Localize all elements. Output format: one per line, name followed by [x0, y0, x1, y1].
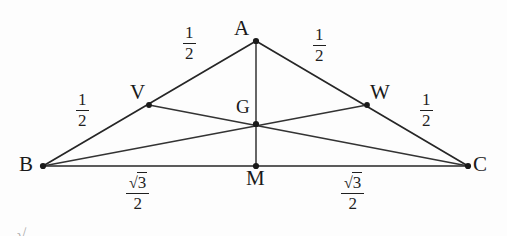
- length-label-AW: 1 2: [313, 26, 326, 66]
- point-dot-G: [253, 121, 259, 127]
- vertex-label-W: W: [370, 82, 390, 103]
- fraction-numerator: 1: [76, 91, 89, 111]
- segment-cevian-BW: [43, 105, 367, 166]
- vertex-label-A: A: [234, 18, 249, 39]
- fraction-AW: 1 2: [313, 26, 326, 66]
- point-dot-B: [40, 163, 46, 169]
- vertex-label-V: V: [130, 82, 145, 103]
- fraction-denominator: 2: [341, 194, 364, 213]
- fraction-MC: √3 2: [341, 174, 364, 214]
- fraction-BM: √3 2: [126, 174, 149, 214]
- radical-sign-group: √3: [343, 174, 362, 192]
- length-label-BM: √3 2: [126, 174, 149, 214]
- fraction-denominator: 2: [183, 44, 196, 63]
- fraction-WC: 1 2: [420, 91, 433, 131]
- radicand: 3: [352, 172, 363, 192]
- vertex-label-B: B: [19, 154, 33, 175]
- fraction-numerator: √3: [341, 174, 364, 194]
- fraction-AV: 1 2: [183, 24, 196, 64]
- geometry-figure: A B C V W G M 1 2 1 2 1 2 1 2 √3: [0, 0, 507, 236]
- radical-sign-group: √3: [128, 174, 147, 192]
- fraction-numerator: √3: [126, 174, 149, 194]
- fraction-BV: 1 2: [76, 91, 89, 131]
- fraction-numerator: 1: [313, 26, 326, 46]
- point-dot-V: [146, 102, 152, 108]
- point-dot-A: [253, 38, 259, 44]
- fraction-denominator: 2: [313, 46, 326, 65]
- fraction-denominator: 2: [76, 111, 89, 130]
- cropped-radical-artifact: √: [17, 227, 37, 236]
- vertex-label-C: C: [473, 154, 487, 175]
- length-label-BV: 1 2: [76, 91, 89, 131]
- fraction-numerator: 1: [420, 91, 433, 111]
- fraction-denominator: 2: [420, 111, 433, 130]
- segment-side-AC: [256, 41, 468, 166]
- length-label-MC: √3 2: [341, 174, 364, 214]
- radicand: 3: [137, 172, 148, 192]
- point-dot-C: [465, 163, 471, 169]
- fraction-denominator: 2: [126, 194, 149, 213]
- length-label-WC: 1 2: [420, 91, 433, 131]
- length-label-AV: 1 2: [183, 24, 196, 64]
- fraction-numerator: 1: [183, 24, 196, 44]
- cevian-lines: [43, 41, 468, 166]
- vertex-label-G: G: [236, 97, 250, 116]
- vertex-label-M: M: [246, 168, 265, 189]
